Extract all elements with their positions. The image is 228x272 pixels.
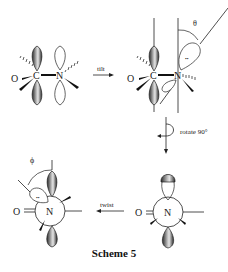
structure-twisted-newman: •• ϕ O N <box>13 156 82 247</box>
lone-pair-dots: •• <box>185 56 189 61</box>
structure-tilted-amide: •• θ O C N <box>127 8 228 113</box>
hashed-bond-c <box>20 56 33 66</box>
wedge-bond-n <box>182 79 194 92</box>
scheme-diagram: O C N tilt •• θ O C <box>0 0 228 272</box>
theta-angle-arc <box>178 30 198 40</box>
scheme-caption: Scheme 5 <box>0 247 228 259</box>
phi-label: ϕ <box>30 156 34 165</box>
carbon-p-orbital-lower-lobe <box>149 80 159 105</box>
atom-n: N <box>56 70 63 81</box>
hashed-bond-n <box>65 61 78 72</box>
theta-label: θ <box>193 19 197 28</box>
atom-c: C <box>150 70 157 81</box>
hashed-bond-n <box>183 74 195 80</box>
atom-n: N <box>174 70 181 81</box>
atom-o: O <box>13 206 20 217</box>
tilt-label: tilt <box>97 65 105 73</box>
wedge-bond-co <box>139 76 150 80</box>
atom-c: C <box>33 70 40 81</box>
filled-cap-lobe <box>161 175 175 183</box>
carbon-p-orbital-upper-lobe <box>32 46 42 71</box>
carbon-lower-lobe <box>162 227 173 248</box>
carbon-lower-lobe <box>47 226 58 247</box>
wedge-bond-c <box>136 78 151 91</box>
atom-n: N <box>164 207 171 218</box>
nitrogen-small-lobe <box>162 80 176 92</box>
atom-n: N <box>46 206 53 217</box>
carbon-p-orbital-lower-lobe <box>32 80 42 105</box>
atom-o: O <box>127 73 134 84</box>
twist-arrow: twist <box>96 201 124 213</box>
carbon-p-orbital-upper-lobe <box>149 46 159 71</box>
rotate-arrow: rotate 90° <box>157 117 208 154</box>
twist-label: twist <box>100 201 114 209</box>
nitrogen-p-orbital-lower-lobe <box>55 80 66 105</box>
wedge-bond-upper-right <box>59 196 71 203</box>
lone-pair-dots: •• <box>36 195 40 200</box>
nitrogen-p-orbital-upper-lobe <box>55 46 66 70</box>
atom-o: O <box>11 73 18 84</box>
hashed-bond-c <box>137 56 150 66</box>
wedge-bond-co <box>22 76 33 80</box>
wedge-bond-n <box>64 78 79 89</box>
carbon-upper-lobe <box>47 171 57 197</box>
structure-rotated-newman: O N <box>135 175 204 249</box>
rotate-label: rotate 90° <box>180 128 208 136</box>
nitrogen-lone-pair-lobe <box>179 43 200 70</box>
structure-planar-amide: O C N <box>11 46 79 105</box>
atom-o: O <box>135 207 142 218</box>
tilted-orbital-axis <box>200 8 228 44</box>
tilt-arrow: tilt <box>93 65 114 77</box>
wedge-bond-c <box>19 78 34 91</box>
